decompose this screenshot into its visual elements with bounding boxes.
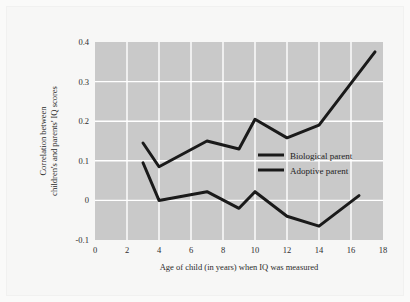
y-tick-label: -0.1 [76, 235, 89, 245]
y-tick-label: 0.2 [78, 116, 89, 126]
y-tick-label: 0 [85, 195, 89, 205]
y-axis-tick-labels: -0.100.10.20.30.4 [76, 37, 90, 245]
x-tick-label: 18 [379, 245, 388, 255]
legend-label-adoptive-parent: Adoptive parent [290, 166, 349, 176]
y-tick-label: 0.1 [78, 156, 89, 166]
x-tick-label: 6 [189, 245, 193, 255]
x-tick-label: 10 [251, 245, 260, 255]
x-axis-title: Age of child (in years) when IQ was meas… [160, 262, 319, 272]
y-tick-label: 0.4 [78, 37, 89, 47]
x-tick-label: 4 [157, 245, 162, 255]
x-tick-label: 2 [125, 245, 129, 255]
figure-container: 024681012141618 -0.100.10.20.30.4 Biolog… [0, 0, 410, 302]
iq-correlation-line-chart: 024681012141618 -0.100.10.20.30.4 Biolog… [0, 0, 410, 302]
x-tick-label: 0 [93, 245, 97, 255]
legend-label-biological-parent: Biological parent [290, 151, 353, 161]
y-tick-label: 0.3 [78, 77, 89, 87]
x-tick-label: 8 [221, 245, 225, 255]
y-axis-title-line1: Correlation between [38, 106, 48, 176]
x-axis-tick-labels: 024681012141618 [93, 245, 387, 255]
x-tick-label: 12 [283, 245, 292, 255]
y-axis-title-line2: children's and parents' IQ scores [49, 86, 59, 196]
x-tick-label: 16 [347, 245, 356, 255]
x-tick-label: 14 [315, 245, 324, 255]
